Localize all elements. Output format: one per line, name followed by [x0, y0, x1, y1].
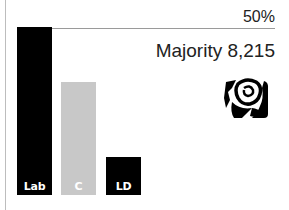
y-axis-line	[5, 0, 6, 210]
fifty-percent-line	[51, 28, 275, 29]
bar-label: LD	[116, 180, 132, 195]
bar-c: C	[61, 82, 96, 195]
labour-rose-icon	[222, 78, 270, 120]
bar-lab: Lab	[17, 27, 52, 195]
bar-label: C	[75, 180, 83, 195]
fifty-percent-label: 50%	[243, 8, 275, 26]
majority-label: Majority 8,215	[156, 40, 275, 62]
bar-ld: LD	[106, 157, 141, 195]
bar-label: Lab	[24, 180, 45, 195]
